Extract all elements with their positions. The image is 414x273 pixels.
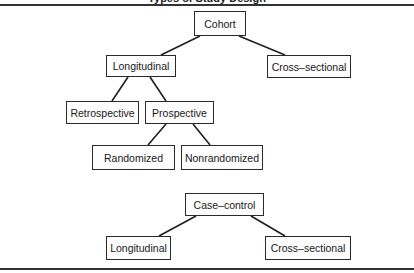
edge-casecontrol-cross-sectional [251,216,285,236]
node-nonrandomized: Nonrandomized [181,145,263,170]
edge-longitudinal-retrospective [112,77,128,101]
node-label: Cohort [204,18,236,30]
node-label: Prospective [152,107,207,119]
edge-cohort-longitudinal [161,36,200,55]
node-case-control: Case–control [185,193,264,216]
node-cc-longitudinal: Longitudinal [106,236,171,260]
node-label: Case–control [194,199,256,211]
edge-longitudinal-prospective [150,77,166,101]
node-longitudinal: Longitudinal [106,55,176,77]
bottom-rule [0,268,414,270]
edge-prospective-randomized [148,124,166,145]
node-label: Longitudinal [110,242,167,254]
edge-cohort-cross-sectional [239,36,285,55]
node-prospective: Prospective [145,101,214,124]
node-label: Cross–sectional [271,242,346,254]
node-retrospective: Retrospective [66,101,139,124]
node-label: Retrospective [70,107,134,119]
node-label: Longitudinal [113,60,170,72]
diagram-edges [0,0,414,273]
node-cc-cross-sectional: Cross–sectional [265,236,351,260]
node-label: Cross–sectional [272,61,347,73]
node-label: Randomized [104,152,163,164]
node-cross-sectional: Cross–sectional [267,55,351,78]
edge-casecontrol-longitudinal [159,216,196,236]
edge-prospective-nonrandomized [193,124,210,145]
node-label: Nonrandomized [185,152,259,164]
node-randomized: Randomized [92,145,175,170]
node-cohort: Cohort [194,11,246,36]
